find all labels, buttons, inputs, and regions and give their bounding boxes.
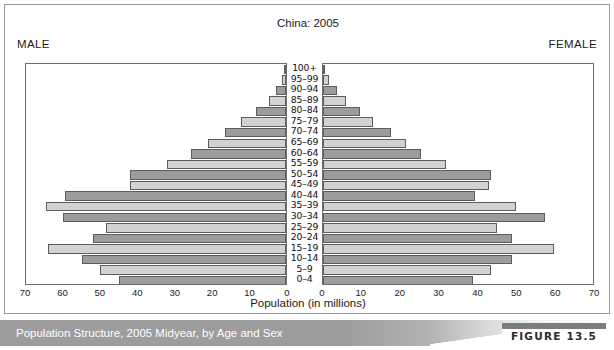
male-bar-row — [26, 96, 286, 107]
male-bar — [208, 139, 286, 148]
female-bar — [323, 107, 360, 116]
female-bar — [323, 65, 325, 74]
female-bar-row — [323, 254, 593, 265]
female-bar — [323, 75, 329, 84]
female-bar-row — [323, 244, 593, 255]
figure-number-label: FIGURE 13.5 — [502, 329, 606, 343]
male-bar-row — [26, 254, 286, 265]
female-bar — [323, 191, 475, 200]
female-bar — [323, 265, 491, 274]
female-bar-row — [323, 127, 593, 138]
female-bar-row — [323, 96, 593, 107]
male-bar — [100, 265, 286, 274]
male-bar — [191, 149, 286, 158]
x-axis-label: Population (in millions) — [5, 297, 611, 309]
female-bar-row — [323, 275, 593, 285]
female-bar — [323, 234, 512, 243]
male-bar-row — [26, 170, 286, 181]
female-bar — [323, 139, 406, 148]
male-bar-row — [26, 180, 286, 191]
male-bar — [167, 160, 286, 169]
female-bar — [323, 223, 497, 232]
female-bar-row — [323, 159, 593, 170]
female-bar-row — [323, 201, 593, 212]
female-bar — [323, 117, 373, 126]
male-bar — [63, 213, 286, 222]
age-group-axis: 100+95–9990–9485–8980–8475–7970–7465–696… — [287, 63, 322, 285]
male-bar — [119, 276, 286, 285]
male-bar-row — [26, 127, 286, 138]
male-bar-row — [26, 117, 286, 128]
female-bar-rows — [323, 64, 593, 284]
male-bar-row — [26, 149, 286, 160]
male-bar-row — [26, 138, 286, 149]
caption-band: Population Structure, 2005 Midyear, by A… — [0, 320, 614, 346]
female-bar-row — [323, 233, 593, 244]
male-bar-row — [26, 265, 286, 276]
male-side-label: MALE — [17, 38, 50, 50]
female-bars-panel — [322, 63, 594, 285]
female-bar — [323, 96, 346, 105]
male-bar — [241, 117, 286, 126]
female-bar — [323, 255, 512, 264]
female-bar-row — [323, 85, 593, 96]
female-bar-row — [323, 223, 593, 234]
male-bar-rows — [26, 64, 286, 284]
male-bar-row — [26, 106, 286, 117]
female-bar-row — [323, 117, 593, 128]
male-bar-row — [26, 159, 286, 170]
male-bar — [282, 75, 286, 84]
female-bar — [323, 149, 421, 158]
female-bar — [323, 128, 391, 137]
female-bar-row — [323, 64, 593, 75]
male-bar-row — [26, 244, 286, 255]
male-bar — [82, 255, 286, 264]
male-bar-row — [26, 201, 286, 212]
female-bar-row — [323, 106, 593, 117]
female-bar — [323, 202, 516, 211]
female-bar — [323, 276, 473, 285]
figure-caption: Population Structure, 2005 Midyear, by A… — [16, 320, 283, 346]
figure-page: China: 2005 MALE FEMALE 100+95–9990–9485… — [0, 0, 614, 350]
female-side-label: FEMALE — [549, 38, 597, 50]
female-bar-row — [323, 149, 593, 160]
male-bar — [93, 234, 286, 243]
male-bar — [65, 191, 286, 200]
female-bar — [323, 86, 337, 95]
male-bar — [130, 170, 286, 179]
male-bar-row — [26, 75, 286, 86]
male-bar — [256, 107, 286, 116]
male-bar-row — [26, 233, 286, 244]
female-bar-row — [323, 75, 593, 86]
male-bar — [269, 96, 286, 105]
male-bar-row — [26, 223, 286, 234]
female-bar — [323, 213, 545, 222]
male-bar-row — [26, 191, 286, 202]
age-group-label: 0–4 — [287, 274, 322, 285]
female-bar-row — [323, 138, 593, 149]
figure-frame: China: 2005 MALE FEMALE 100+95–9990–9485… — [4, 4, 610, 314]
female-bar — [323, 170, 491, 179]
female-bar — [323, 181, 489, 190]
male-bar — [46, 202, 286, 211]
age-group-label: 100+ — [287, 63, 322, 74]
age-group-label: 30–34 — [287, 211, 322, 222]
male-bar-row — [26, 212, 286, 223]
male-bar-row — [26, 275, 286, 285]
female-bar-row — [323, 180, 593, 191]
male-bar-row — [26, 64, 286, 75]
male-bar-row — [26, 85, 286, 96]
male-bar — [284, 65, 286, 74]
age-group-label: 65–69 — [287, 137, 322, 148]
female-bar-row — [323, 265, 593, 276]
chart-title: China: 2005 — [5, 17, 611, 29]
male-bar — [225, 128, 286, 137]
female-bar — [323, 160, 446, 169]
female-bar-row — [323, 212, 593, 223]
figure-number-badge: FIGURE 13.5 — [502, 323, 606, 343]
plot-area: 100+95–9990–9485–8980–8475–7970–7465–696… — [25, 63, 595, 285]
female-bar-row — [323, 191, 593, 202]
male-bar — [276, 86, 286, 95]
male-bars-panel — [25, 63, 287, 285]
female-bar — [323, 244, 554, 253]
